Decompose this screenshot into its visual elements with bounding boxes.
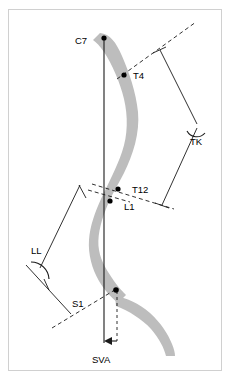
landmark-dot-l1: [107, 198, 112, 203]
ll-angle-arc: [31, 262, 49, 279]
label-t12: T12: [132, 184, 148, 195]
label-l1: L1: [124, 201, 135, 212]
s1-endplate-dashed-line: [52, 288, 118, 328]
landmark-dot-t12: [115, 186, 120, 191]
landmark-dot-s1: [113, 287, 119, 293]
sva-arrow-head: [104, 337, 112, 345]
label-c7: C7: [75, 35, 87, 46]
spine-alignment-diagram: C7 T4 T12 L1 S1 TK LL SVA: [0, 0, 232, 381]
tk-upper-arm: [160, 50, 197, 124]
label-s1: S1: [72, 298, 84, 309]
label-t4: T4: [133, 70, 144, 81]
t4-endplate-dashed-line: [117, 22, 196, 79]
ll-upper-arm: [40, 185, 80, 268]
ll-lower-tick: [44, 279, 49, 290]
figure-root: C7 T4 T12 L1 S1 TK LL SVA: [0, 0, 232, 381]
landmark-dot-t4: [121, 72, 126, 77]
ll-upper-tick: [79, 185, 86, 198]
label-tk: TK: [190, 136, 203, 147]
label-ll: LL: [31, 245, 42, 256]
label-sva: SVA: [92, 354, 111, 365]
tk-lower-tick: [155, 203, 169, 208]
sacrum-coccyx-shape: [115, 296, 175, 356]
landmark-dot-c7: [101, 35, 106, 40]
spine-column-shape: [89, 33, 138, 303]
